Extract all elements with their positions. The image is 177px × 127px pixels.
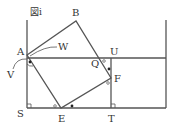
angle-mark-open-Q <box>103 60 106 63</box>
label-S: S <box>17 108 24 119</box>
label-T: T <box>108 113 115 124</box>
label-V: V <box>6 69 15 80</box>
label-F: F <box>114 73 121 84</box>
figure-title: 図ⅰ <box>30 7 42 17</box>
angle-arc-V <box>27 64 33 66</box>
label-E: E <box>58 113 65 124</box>
label-U: U <box>110 46 118 57</box>
label-Q: Q <box>91 58 99 69</box>
pointer-V <box>13 59 27 69</box>
angle-mark-filled-F <box>108 68 111 71</box>
angle-mark-filled-A <box>29 61 32 64</box>
pointer-W <box>30 47 57 56</box>
label-B: B <box>72 7 79 18</box>
angle-mark-filled-E <box>71 105 74 108</box>
angle-mark-open-E <box>54 105 57 108</box>
label-A: A <box>16 46 25 57</box>
geometry-diagram: 図ⅰ B A W V U Q F S E T <box>0 0 177 127</box>
label-W: W <box>58 41 69 52</box>
angle-mark-open-F <box>107 82 110 85</box>
